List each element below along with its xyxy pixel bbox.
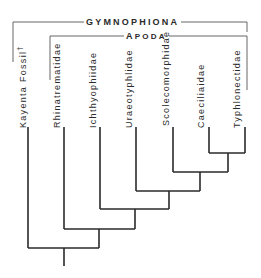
taxon-uraeotyphlidae: Uraeotyphlidae bbox=[124, 49, 134, 128]
apoda-label-initial: A bbox=[126, 31, 135, 41]
apoda-bracket bbox=[50, 36, 247, 90]
gymnophiona-label: GYMNOPHIONA bbox=[84, 17, 181, 27]
taxon-caeciliaidae: Caeciliaidae bbox=[196, 63, 206, 128]
taxon-scolecomorphidae: Scolecomorphidae bbox=[161, 31, 171, 126]
taxon-ichthyophiidae: Ichthyophiidae bbox=[88, 52, 98, 128]
taxon-kayenta-fossil: Kayenta Fossil† bbox=[15, 46, 28, 128]
taxon-rhinatrematidae: Rhinatrematidae bbox=[52, 42, 62, 128]
extinct-dagger-mark: † bbox=[16, 46, 23, 51]
taxon-typhlonectidae: Typhlonectidae bbox=[232, 49, 242, 128]
tree-branches bbox=[28, 127, 245, 266]
taxon-label: Kayenta Fossil bbox=[18, 51, 28, 128]
